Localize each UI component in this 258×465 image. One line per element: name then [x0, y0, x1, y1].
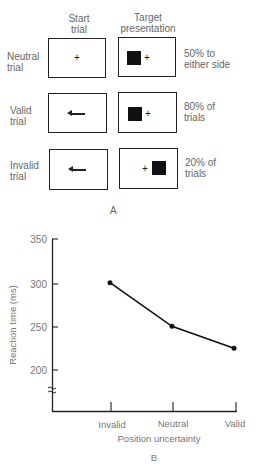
row-label-line2: trial — [10, 171, 39, 182]
fixation-cross-icon: + — [74, 53, 80, 63]
y-tick-label: 200 — [30, 365, 47, 376]
panel-b-caption: B — [151, 452, 157, 463]
header-target-line1: Target — [114, 12, 182, 23]
x-tick-label: Valid — [225, 418, 245, 429]
y-tick-label: 250 — [30, 322, 47, 333]
row-desc-line2: either side — [184, 59, 230, 70]
target-square-icon — [152, 161, 166, 175]
row-label-line1: Invalid — [10, 160, 39, 171]
row-desc-invalid: 20% of trials — [185, 157, 216, 179]
left-arrow-icon — [72, 169, 86, 171]
left-arrow-icon — [71, 113, 85, 115]
row-label-line2: trial — [10, 116, 32, 127]
x-axis-label: Position uncertainty — [118, 433, 201, 444]
row-label-invalid: Invalid trial — [10, 160, 39, 182]
target-square-icon — [127, 51, 141, 65]
data-points — [108, 280, 237, 351]
target-box-neutral: + — [118, 37, 176, 77]
header-target-line2: presentation — [114, 23, 182, 34]
row-label-valid: Valid trial — [10, 105, 32, 127]
data-point — [108, 280, 113, 285]
row-label-neutral: Neutral trial — [7, 51, 39, 73]
y-tick-label: 350 — [30, 234, 47, 245]
start-box-valid — [48, 93, 107, 133]
x-tick-label: Invalid — [98, 419, 125, 430]
data-point — [232, 346, 237, 351]
row-desc-line2: trials — [185, 168, 216, 179]
y-axis-label: Reaction time (ms) — [7, 285, 18, 365]
row-desc-neutral: 50% to either side — [184, 48, 230, 70]
x-tick-label: Neutral — [158, 418, 189, 429]
start-box-invalid — [49, 149, 108, 190]
start-box-neutral: + — [48, 38, 106, 78]
row-label-line1: Neutral — [7, 51, 39, 62]
fixation-cross-icon: + — [142, 164, 148, 174]
y-tick-label: 300 — [30, 279, 47, 290]
row-desc-line1: 20% of — [185, 157, 216, 168]
row-desc-valid: 80% of trials — [184, 101, 215, 123]
row-desc-line1: 80% of — [184, 101, 215, 112]
target-box-valid: + — [118, 92, 177, 133]
row-label-line2: trial — [7, 62, 39, 73]
row-desc-line1: 50% to — [184, 48, 230, 59]
target-box-invalid: + — [119, 148, 178, 189]
panel-a-caption: A — [110, 205, 117, 216]
fixation-cross-icon: + — [145, 109, 151, 119]
data-series-line — [110, 283, 234, 349]
data-point — [170, 324, 175, 329]
fixation-cross-icon: + — [144, 53, 150, 63]
row-desc-line2: trials — [184, 112, 215, 123]
target-square-icon — [128, 107, 142, 121]
line-chart: 350 300 250 200 Reaction time (ms) Inval… — [0, 225, 258, 465]
row-label-line1: Valid — [10, 105, 32, 116]
header-start-trial-line2: trial — [50, 24, 108, 35]
header-start-trial-line1: Start — [50, 13, 108, 24]
